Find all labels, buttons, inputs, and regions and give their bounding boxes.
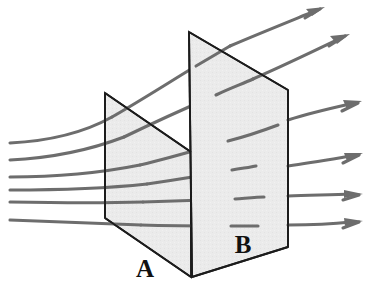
plane-b-label: B xyxy=(235,231,252,258)
fieldline-5-on-plane-b xyxy=(235,197,264,199)
physics-diagram: A B xyxy=(0,0,385,293)
fieldline-5-segment-right xyxy=(288,194,351,196)
fieldline-5-segment-left xyxy=(10,202,143,203)
figure-canvas: A B xyxy=(0,0,385,293)
plane-a-label: A xyxy=(136,255,154,282)
